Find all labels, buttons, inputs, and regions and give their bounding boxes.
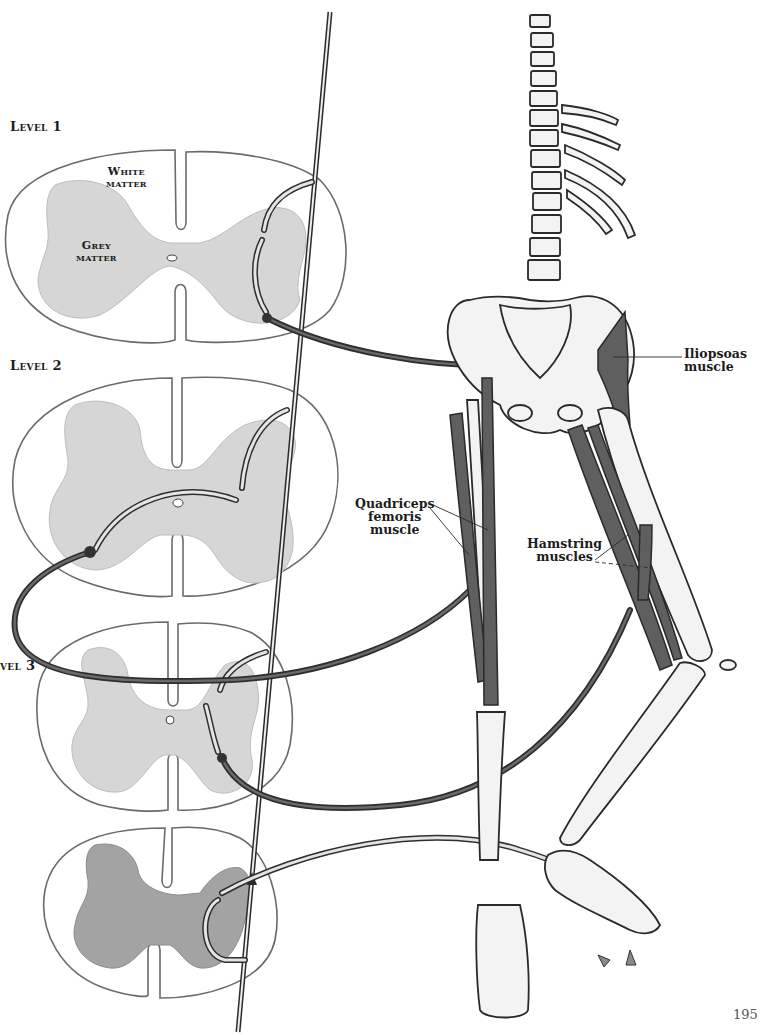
page-number: 195: [733, 1007, 758, 1022]
level-1-label: Level 1: [10, 120, 62, 134]
ribs: [562, 105, 635, 238]
quadriceps-label: Quadriceps femoris muscle: [355, 497, 435, 536]
level-3-label: vel 3: [0, 659, 35, 673]
cord-section-level-1: [6, 150, 346, 343]
hamstring-line2: muscles: [527, 550, 602, 563]
grey-matter-label: Grey matter: [76, 240, 117, 263]
cord-section-level-3: [37, 622, 292, 811]
white-matter-line1: White: [106, 166, 147, 178]
iliopsoas-label: Iliopsoas muscle: [684, 347, 747, 373]
left-leg: [450, 378, 529, 1018]
iliopsoas-line2: muscle: [684, 360, 747, 373]
grey-matter-line2: matter: [76, 252, 117, 264]
level-2-label: Level 2: [10, 359, 62, 373]
grey-matter-line1: Grey: [76, 240, 117, 252]
right-leg: [545, 408, 736, 967]
hamstring-label: Hamstring muscles: [527, 537, 602, 563]
white-matter-line2: matter: [106, 178, 147, 190]
vertebral-column: [528, 15, 561, 280]
white-matter-label: White matter: [106, 166, 147, 189]
quadriceps-line3: muscle: [355, 523, 435, 536]
